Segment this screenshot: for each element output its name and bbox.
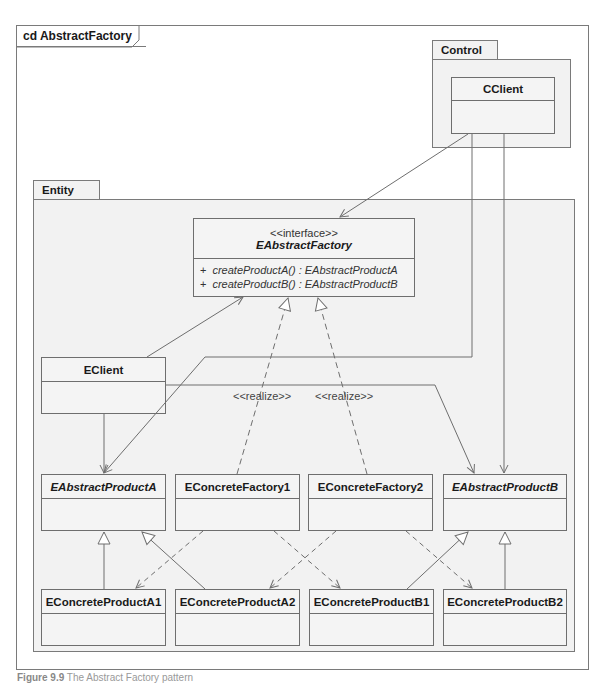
operation-create-product-b: +createProductB() : EAbstractProductB: [194, 277, 414, 291]
class-name: EConcreteFactory1: [185, 481, 290, 493]
class-econcretefactory1-header: EConcreteFactory1: [176, 475, 299, 499]
class-econcretefactory2-header: EConcreteFactory2: [309, 475, 432, 499]
class-eclient-header: EClient: [42, 358, 165, 382]
class-econcretefactory2[interactable]: EConcreteFactory2: [308, 474, 433, 531]
class-name: EAbstractProductA: [50, 481, 156, 493]
class-name: CClient: [483, 83, 523, 95]
class-name: EClient: [84, 364, 124, 376]
stereotype-label: <<interface>>: [270, 227, 338, 239]
figure-caption-prefix: Figure 9.9: [17, 672, 64, 683]
class-name: EConcreteProductA1: [46, 596, 162, 608]
class-econcreteproductb1-header: EConcreteProductB1: [310, 590, 433, 614]
class-name: EAbstractProductB: [452, 481, 558, 493]
diagram-frame-label: cd AbstractFactory: [16, 25, 146, 47]
class-eabstractproductb-header: EAbstractProductB: [444, 475, 566, 499]
class-econcreteproducta2-header: EConcreteProductA2: [176, 590, 299, 614]
realize-label-2: <<realize>>: [315, 390, 373, 402]
class-eabstractfactory-header: <<interface>> EAbstractFactory: [194, 219, 414, 259]
class-eabstractproducta-header: EAbstractProductA: [42, 475, 165, 499]
class-cclient-header: CClient: [452, 78, 554, 101]
class-cclient[interactable]: CClient: [451, 77, 555, 134]
visibility-marker: +: [200, 264, 206, 276]
class-econcreteproductb1[interactable]: EConcreteProductB1: [309, 589, 434, 646]
class-econcreteproducta2[interactable]: EConcreteProductA2: [175, 589, 300, 646]
class-name: EAbstractFactory: [256, 239, 352, 251]
class-eabstractproducta[interactable]: EAbstractProductA: [41, 474, 166, 531]
control-package-tab[interactable]: Control: [432, 40, 498, 60]
entity-package-tab[interactable]: Entity: [33, 180, 100, 200]
class-econcreteproductb2-header: EConcreteProductB2: [444, 590, 566, 614]
class-eclient[interactable]: EClient: [41, 357, 166, 414]
operation-signature: createProductA() : EAbstractProductA: [212, 264, 397, 276]
class-econcreteproducta1[interactable]: EConcreteProductA1: [41, 589, 166, 646]
operations-compartment: +createProductA() : EAbstractProductA +c…: [194, 259, 414, 291]
class-eabstractfactory[interactable]: <<interface>> EAbstractFactory +createPr…: [193, 218, 415, 297]
class-name: EConcreteProductA2: [180, 596, 296, 608]
operation-create-product-a: +createProductA() : EAbstractProductA: [194, 263, 414, 277]
class-eabstractproductb[interactable]: EAbstractProductB: [443, 474, 567, 531]
entity-package-label: Entity: [42, 184, 74, 196]
frame-title: cd AbstractFactory: [23, 29, 132, 43]
figure-caption: Figure 9.9 The Abstract Factory pattern: [17, 672, 193, 683]
class-econcretefactory1[interactable]: EConcreteFactory1: [175, 474, 300, 531]
class-name: EConcreteProductB1: [314, 596, 430, 608]
class-econcreteproductb2[interactable]: EConcreteProductB2: [443, 589, 567, 646]
class-econcreteproducta1-header: EConcreteProductA1: [42, 590, 165, 614]
control-package-label: Control: [441, 44, 482, 56]
realize-label-1: <<realize>>: [233, 390, 291, 402]
class-name: EConcreteFactory2: [318, 481, 423, 493]
visibility-marker: +: [200, 278, 206, 290]
class-name: EConcreteProductB2: [447, 596, 563, 608]
operation-signature: createProductB() : EAbstractProductB: [212, 278, 397, 290]
figure-caption-text: The Abstract Factory pattern: [67, 672, 193, 683]
